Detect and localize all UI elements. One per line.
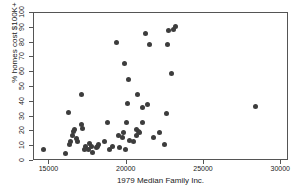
scatter-point <box>110 144 115 149</box>
y-tick <box>29 145 33 146</box>
x-tick-label: 25000 <box>183 165 223 172</box>
scatter-point <box>90 150 95 155</box>
y-tick-label: 20 <box>17 124 27 136</box>
scatter-point <box>89 144 94 149</box>
scatter-point <box>140 120 145 125</box>
scatter-point <box>63 151 68 156</box>
y-axis-label: % homes cost $100K+ <box>10 0 19 118</box>
scatter-point <box>79 92 84 97</box>
x-tick <box>48 160 49 164</box>
data-points-layer <box>34 13 287 159</box>
y-tick-label: 80 <box>17 36 27 48</box>
y-tick <box>29 160 33 161</box>
scatter-point <box>125 101 130 106</box>
scatter-plot-figure: 15000200002500030000 0102030405060708090… <box>0 0 306 192</box>
scatter-point <box>102 139 107 144</box>
scatter-point <box>137 130 142 135</box>
x-axis-label: 1979 Median Family Inc. <box>33 176 288 185</box>
scatter-point <box>145 102 150 107</box>
y-tick <box>29 130 33 131</box>
y-tick-label: 60 <box>17 65 27 77</box>
scatter-point <box>253 104 258 109</box>
plot-area <box>33 12 288 160</box>
scatter-point <box>96 142 101 147</box>
y-tick-label: 70 <box>17 50 27 62</box>
scatter-point <box>68 139 73 144</box>
y-tick <box>29 56 33 57</box>
y-tick-label: 90 <box>17 21 27 33</box>
scatter-point <box>75 139 80 144</box>
scatter-point <box>162 142 167 147</box>
y-tick-label: 0 <box>17 154 27 166</box>
scatter-point <box>41 147 46 152</box>
scatter-point <box>120 135 125 140</box>
y-tick-label: 100 <box>17 6 27 18</box>
y-tick-label: 10 <box>17 139 27 151</box>
scatter-point <box>117 145 122 150</box>
scatter-point <box>105 120 110 125</box>
y-tick <box>29 27 33 28</box>
scatter-point <box>72 127 77 132</box>
scatter-point <box>143 31 148 36</box>
scatter-point <box>164 111 169 116</box>
scatter-point <box>131 139 136 144</box>
x-tick <box>126 160 127 164</box>
y-tick <box>29 71 33 72</box>
x-tick <box>203 160 204 164</box>
x-tick-label: 15000 <box>28 165 68 172</box>
scatter-point <box>173 24 178 29</box>
x-tick <box>280 160 281 164</box>
y-tick <box>29 42 33 43</box>
scatter-point <box>66 110 71 115</box>
scatter-point <box>122 61 127 66</box>
scatter-point <box>123 147 128 152</box>
y-tick-label: 30 <box>17 110 27 122</box>
y-tick <box>29 116 33 117</box>
y-tick-label: 40 <box>17 95 27 107</box>
scatter-point <box>169 71 174 76</box>
y-tick <box>29 12 33 13</box>
x-tick-label: 30000 <box>260 165 300 172</box>
scatter-point <box>165 42 170 47</box>
x-tick-label: 20000 <box>106 165 146 172</box>
scatter-point <box>80 126 85 131</box>
y-tick-label: 50 <box>17 80 27 92</box>
y-tick <box>29 86 33 87</box>
scatter-point <box>157 130 162 135</box>
scatter-point <box>135 92 140 97</box>
scatter-point <box>126 77 131 82</box>
scatter-point <box>151 135 156 140</box>
scatter-point <box>121 130 126 135</box>
y-tick <box>29 101 33 102</box>
scatter-point <box>114 40 119 45</box>
scatter-point <box>147 42 152 47</box>
scatter-point <box>124 120 129 125</box>
